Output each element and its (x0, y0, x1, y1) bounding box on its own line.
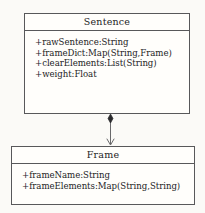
uml-class-name-sentence: Sentence (25, 14, 189, 31)
uml-class-diagram: Sentence +rawSentence:String +frameDict:… (0, 0, 205, 213)
open-arrow-icon (107, 139, 114, 145)
uml-attribute: +rawSentence:String (35, 37, 189, 48)
uml-class-frame[interactable]: Frame +frameName:String +frameElements:M… (11, 146, 195, 205)
uml-attribute: +frameName:String (22, 170, 194, 181)
uml-attribute: +weight:Float (35, 69, 189, 80)
uml-attributes-frame: +frameName:String +frameElements:Map(Str… (12, 164, 194, 195)
uml-class-name-frame: Frame (12, 147, 194, 164)
uml-attribute: +frameDict:Map(String,Frame) (35, 48, 189, 59)
uml-attributes-sentence: +rawSentence:String +frameDict:Map(Strin… (25, 31, 189, 83)
uml-class-sentence[interactable]: Sentence +rawSentence:String +frameDict:… (24, 13, 190, 114)
uml-attribute: +clearElements:List(String) (35, 58, 189, 69)
uml-attribute: +frameElements:Map(String,String) (22, 181, 194, 192)
filled-diamond-icon (108, 114, 113, 123)
